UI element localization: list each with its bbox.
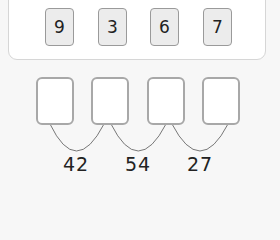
pair-sum-label: 42 [56, 153, 96, 175]
answer-box[interactable] [91, 77, 129, 125]
pair-sum-label: 54 [118, 153, 158, 175]
answer-box[interactable] [36, 77, 74, 125]
answer-box[interactable] [147, 77, 185, 125]
pair-sum-label: 27 [180, 153, 220, 175]
answer-box[interactable] [202, 77, 240, 125]
